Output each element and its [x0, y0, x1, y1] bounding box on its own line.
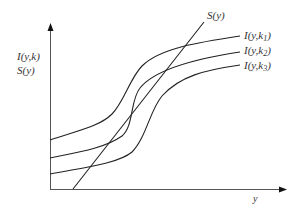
curve-i-y-k1	[50, 36, 240, 140]
curve-label-k1: I(y,k1)	[243, 29, 271, 43]
line-s-y	[73, 22, 204, 189]
curve-i-y-k3	[50, 65, 240, 174]
y-axis-label-i: I(y,k)	[16, 50, 40, 63]
curve-i-y-k2	[50, 52, 240, 158]
curve-label-k3: I(y,k3)	[243, 59, 271, 73]
x-axis-label: y	[252, 193, 258, 204]
curve-label-k2: I(y,k2)	[243, 44, 271, 58]
diagram-canvas: I(y,k) S(y) y S(y) I(y,k1) I(y,k2) I(y,k…	[0, 0, 299, 208]
x-axis-arrow-icon	[279, 187, 287, 193]
line-label-s-y: S(y)	[207, 9, 225, 22]
y-axis-label-s: S(y)	[17, 64, 35, 77]
y-axis-arrow-icon	[48, 23, 54, 31]
